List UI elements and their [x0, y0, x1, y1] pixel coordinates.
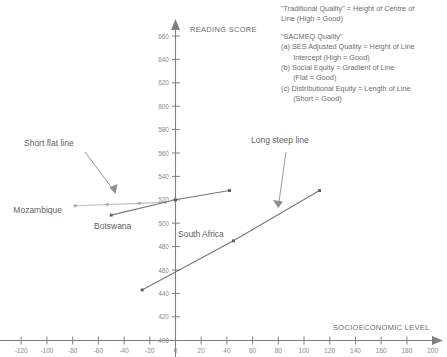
x-tick--60: -60: [94, 337, 104, 354]
callout-long-steep-line: Long steep line: [251, 135, 309, 208]
y-tick-640: 640: [158, 56, 180, 63]
y-axis-arrowhead: [171, 19, 180, 30]
x-tick-label: -40: [119, 347, 129, 354]
y-tick-480: 480: [158, 243, 180, 250]
y-tick-420: 420: [158, 313, 180, 320]
callout-short-flat-line: Short flat line: [24, 138, 118, 194]
x-tick--40: -40: [119, 337, 129, 354]
legend-line: (a) SES Adjusted Quality = Height of Lin…: [281, 42, 445, 52]
y-tick-580: 580: [158, 126, 180, 133]
x-tick--80: -80: [68, 337, 78, 354]
x-tick-40: 40: [223, 337, 231, 354]
y-tick-label: 500: [158, 220, 169, 227]
series-line: [111, 191, 229, 216]
data-point: [232, 239, 235, 242]
y-tick-label: 580: [158, 126, 169, 133]
y-tick-500: 500: [158, 220, 180, 227]
x-tick-label: 80: [275, 347, 283, 354]
x-tick-label: -60: [94, 347, 104, 354]
x-tick-label: -80: [68, 347, 78, 354]
legend-line: (b) Social Equity = Gradient of Line: [281, 63, 445, 73]
legend-line: "Traditional Quality" = Height of Centre…: [281, 4, 445, 14]
x-axis-ticks: -120 -100 -80 -60 -40 -20 0 20 40 60 80: [15, 337, 439, 354]
y-tick-label: 560: [158, 150, 169, 157]
x-tick-100: 100: [299, 337, 310, 354]
data-point: [138, 202, 141, 205]
series-line: [142, 191, 319, 290]
x-tick-label: 40: [223, 347, 231, 354]
callout-label: Short flat line: [24, 138, 74, 148]
x-tick-label: 60: [249, 347, 257, 354]
data-point: [74, 204, 77, 207]
y-tick-560: 560: [158, 150, 180, 157]
x-tick-label: 140: [350, 347, 361, 354]
y-tick-600: 600: [158, 103, 180, 110]
x-tick-label: 20: [198, 347, 206, 354]
x-tick-160: 160: [376, 337, 387, 354]
series-label-botswana: Botswana: [94, 221, 132, 231]
x-tick-label: 120: [324, 347, 335, 354]
y-axis-title: READING SCORE: [190, 25, 257, 34]
x-tick-20: 20: [198, 337, 206, 354]
x-tick-0: 0: [174, 347, 178, 354]
data-point: [106, 203, 109, 206]
x-tick-60: 60: [249, 337, 257, 354]
legend-line: (c) Distributional Equity = Length of Li…: [281, 84, 445, 94]
x-tick-120: 120: [324, 337, 335, 354]
series-label-mozambique: Mozambique: [13, 205, 62, 215]
x-tick-label: 180: [401, 347, 412, 354]
y-axis: [171, 19, 180, 357]
legend-line: "SACMEQ Quality": [281, 32, 445, 42]
y-tick-620: 620: [158, 79, 180, 86]
y-axis-ticks: 660 640 620 600 580 560 540 520 500 480 …: [158, 33, 180, 344]
callout-label: Long steep line: [251, 135, 309, 145]
y-tick-label: 460: [158, 267, 169, 274]
y-tick-label: 620: [158, 79, 169, 86]
y-tick-400: 400: [158, 337, 169, 344]
legend-line: (Flat = Good): [281, 73, 445, 83]
x-tick-label: 160: [376, 347, 387, 354]
x-tick-label: 200: [427, 347, 438, 354]
data-point: [318, 189, 321, 192]
y-tick-label: 660: [158, 33, 169, 40]
y-tick-label: 600: [158, 103, 169, 110]
x-tick--120: -120: [15, 337, 28, 354]
y-tick-440: 440: [158, 290, 180, 297]
y-tick-label: 640: [158, 56, 169, 63]
legend-line: (Short = Good): [281, 94, 445, 104]
x-tick-180: 180: [401, 337, 412, 354]
data-point: [228, 189, 231, 192]
y-tick-label: 440: [158, 290, 169, 297]
y-tick-660: 660: [158, 33, 180, 40]
x-axis: [0, 336, 443, 345]
x-tick--100: -100: [40, 337, 53, 354]
data-point: [141, 289, 144, 292]
series-label-south-africa: South Africa: [178, 229, 224, 239]
y-tick-540: 540: [158, 173, 180, 180]
y-tick-label: 480: [158, 243, 169, 250]
x-axis-arrowhead: [432, 336, 443, 345]
y-tick-label: 420: [158, 313, 169, 320]
definitions-legend-box: "Traditional Quality" = Height of Centre…: [281, 4, 445, 105]
x-tick-140: 140: [350, 337, 361, 354]
x-axis-title: SOCIOECONOMIC LEVEL: [333, 323, 430, 332]
x-tick-80: 80: [275, 337, 283, 354]
x-tick-label: -100: [40, 347, 53, 354]
x-tick-label: -20: [145, 347, 155, 354]
x-tick-label: 0: [174, 347, 178, 354]
x-tick-label: 100: [299, 347, 310, 354]
series-botswana: [110, 189, 231, 216]
y-tick-label: 540: [158, 173, 169, 180]
data-point: [174, 198, 177, 201]
reading-score-scatter-chart: 660 640 620 600 580 560 540 520 500 480 …: [0, 0, 447, 357]
legend-line: Intercept (High = Good): [281, 53, 445, 63]
y-tick-label: 400: [158, 337, 169, 344]
data-point: [110, 214, 113, 217]
legend-line: Line (High = Good): [281, 14, 445, 24]
series-mozambique: [74, 201, 167, 208]
y-tick-460: 460: [158, 267, 180, 274]
series-south-africa: [141, 189, 321, 291]
x-tick--20: -20: [145, 337, 155, 354]
x-tick-label: -120: [15, 347, 28, 354]
